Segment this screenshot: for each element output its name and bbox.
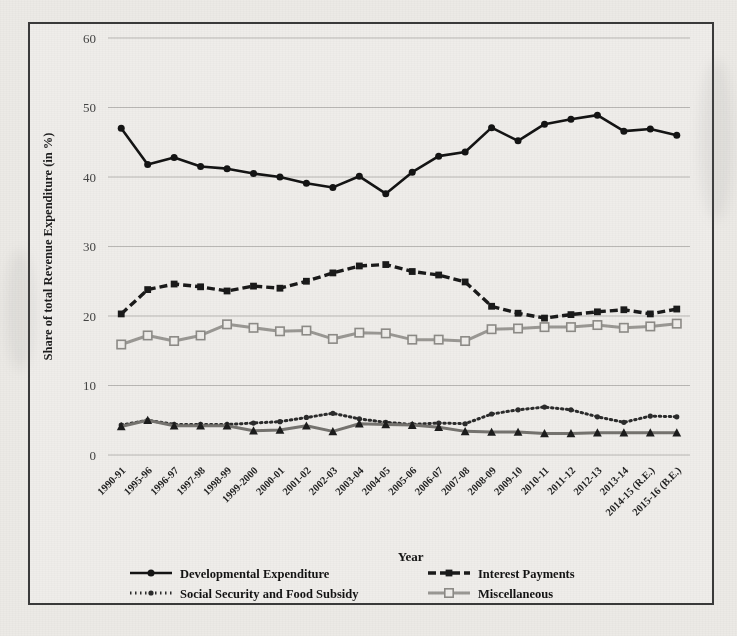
gridlines: 0102030405060 — [83, 31, 690, 463]
data-point — [463, 421, 468, 426]
data-point — [621, 420, 626, 425]
data-point — [330, 411, 335, 416]
series-line — [121, 265, 677, 319]
chart-frame: 0102030405060Share of total Revenue Expe… — [28, 22, 714, 605]
data-point — [514, 324, 522, 332]
data-point — [197, 283, 204, 290]
data-point — [515, 137, 522, 144]
legend-swatch-marker — [446, 570, 453, 577]
data-point — [144, 161, 151, 168]
data-point — [648, 413, 653, 418]
x-tick-label-3: 1997-98 — [174, 465, 207, 498]
data-point — [594, 112, 601, 119]
data-point — [541, 315, 548, 322]
series-line — [121, 407, 677, 425]
y-tick-label-60: 60 — [83, 31, 96, 46]
data-point — [197, 163, 204, 170]
data-point — [567, 116, 574, 123]
data-point — [647, 311, 654, 318]
data-point — [461, 337, 469, 345]
series-interest-payments — [118, 261, 680, 321]
data-point — [620, 306, 627, 313]
y-tick-label-0: 0 — [90, 448, 97, 463]
y-tick-label-40: 40 — [83, 170, 96, 185]
legend-item-label: Miscellaneous — [478, 587, 553, 601]
legend-item-developmental-expenditure[interactable]: Developmental Expenditure — [130, 567, 330, 581]
data-point — [356, 263, 363, 270]
data-point — [673, 132, 680, 139]
legend-item-social-security-and-food-subsidy[interactable]: Social Security and Food Subsidy — [130, 587, 359, 601]
data-point — [148, 570, 155, 577]
data-point — [673, 306, 680, 313]
x-tick-label-11: 2005-06 — [386, 465, 419, 498]
y-axis-title: Share of total Revenue Expenditure (in %… — [41, 132, 55, 360]
legend-item-label: Interest Payments — [478, 567, 575, 581]
data-point — [462, 279, 469, 286]
data-point — [489, 411, 494, 416]
data-point — [224, 165, 231, 172]
data-point — [595, 414, 600, 419]
data-point — [303, 278, 310, 285]
legend-item-label: Developmental Expenditure — [180, 567, 330, 581]
x-tick-label-16: 2010-11 — [519, 465, 551, 497]
data-point — [446, 570, 453, 577]
x-tick-label-10: 2004-05 — [360, 465, 393, 498]
data-point — [568, 311, 575, 318]
data-point — [171, 281, 178, 288]
data-point — [276, 327, 284, 335]
data-point — [196, 331, 204, 339]
data-point — [143, 331, 151, 339]
data-point — [409, 169, 416, 176]
data-point — [435, 272, 442, 279]
data-point — [382, 261, 389, 268]
legend-item-interest-payments[interactable]: Interest Payments — [428, 567, 575, 581]
data-point — [250, 283, 257, 290]
x-tick-label-0: 1990-91 — [95, 465, 128, 498]
data-point — [249, 324, 257, 332]
legend-swatch-marker — [445, 589, 453, 597]
data-point — [277, 285, 284, 292]
legend-item-miscellaneous[interactable]: Miscellaneous — [428, 587, 553, 601]
data-point — [251, 420, 256, 425]
series-miscellaneous — [117, 319, 681, 348]
data-point — [144, 286, 151, 293]
data-point — [673, 319, 681, 327]
data-point — [593, 321, 601, 329]
x-tick-label-13: 2007-08 — [439, 465, 472, 498]
data-point — [118, 125, 125, 132]
y-tick-label-50: 50 — [83, 100, 96, 115]
data-point — [409, 268, 416, 275]
chart-legend: Developmental ExpenditureInterest Paymen… — [130, 567, 575, 604]
data-point — [382, 329, 390, 337]
data-point — [542, 404, 547, 409]
x-tick-label-14: 2008-09 — [465, 465, 498, 498]
data-point — [445, 589, 453, 597]
data-point — [541, 121, 548, 128]
x-axis-title: Year — [398, 549, 424, 564]
data-point — [118, 311, 125, 318]
data-point — [329, 335, 337, 343]
data-point — [540, 323, 548, 331]
y-tick-label-20: 20 — [83, 309, 96, 324]
data-point — [594, 308, 601, 315]
data-point — [382, 190, 389, 197]
data-point — [148, 590, 153, 595]
data-point — [223, 320, 231, 328]
x-tick-label-8: 2002-03 — [307, 465, 340, 498]
legend-item-label: Social Security and Food Subsidy — [180, 587, 359, 601]
data-point — [647, 126, 654, 133]
data-point — [304, 415, 309, 420]
data-point — [620, 128, 627, 135]
data-point — [674, 414, 679, 419]
data-point — [356, 173, 363, 180]
x-tick-label-1: 1995-96 — [122, 465, 155, 498]
x-tick-label-2: 1996-97 — [148, 465, 181, 498]
data-point — [568, 407, 573, 412]
data-point — [488, 124, 495, 131]
line-chart: 0102030405060Share of total Revenue Expe… — [30, 24, 712, 603]
y-tick-label-30: 30 — [83, 239, 96, 254]
x-tick-label-6: 2000-01 — [254, 465, 287, 498]
x-tick-label-18: 2012-13 — [571, 465, 604, 498]
data-point — [117, 340, 125, 348]
data-point — [250, 170, 257, 177]
